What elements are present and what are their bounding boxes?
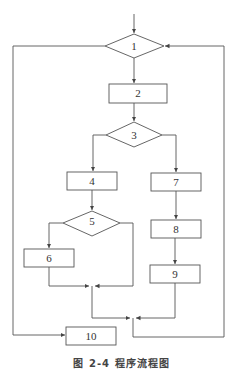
node-label-7: 7 — [173, 176, 179, 188]
node-label-10: 10 — [86, 330, 98, 342]
figure-caption: 图 2-4 程序流程图 — [0, 355, 243, 370]
node-label-9: 9 — [172, 268, 178, 280]
node-label-2: 2 — [135, 87, 141, 99]
node-label-3: 3 — [131, 129, 137, 141]
node-label-5: 5 — [89, 215, 95, 227]
node-label-1: 1 — [131, 40, 137, 52]
node-label-8: 8 — [173, 223, 179, 235]
node-label-4: 4 — [89, 175, 95, 187]
flowchart: 1 2 3 4 5 6 7 8 9 10 — [0, 0, 243, 382]
node-label-6: 6 — [46, 252, 52, 264]
